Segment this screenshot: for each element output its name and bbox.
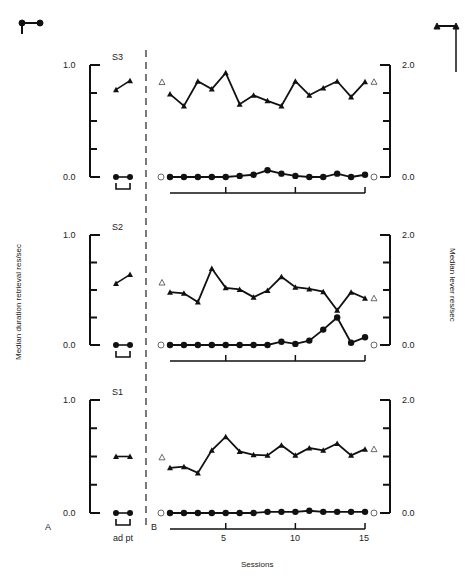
left-axis-title: Median duration retrieval res/sec (14, 244, 23, 360)
right-tick-bottom: 0.0 (402, 508, 415, 518)
chart-figure: Median duration retrieval res/sec Median… (0, 0, 474, 576)
right-tick-bottom: 0.0 (402, 172, 415, 182)
right-axis-title: Median lever res/sec (448, 248, 457, 322)
right-tick-top: 2.0 (402, 60, 415, 70)
x-tick-15: 15 (359, 533, 369, 543)
left-tick-top: 1.0 (63, 395, 76, 405)
panel-s1: S11.00.02.00.0 (63, 387, 415, 529)
legend-circle-icon (19, 20, 43, 34)
panel-s3: S31.00.02.00.0 (63, 52, 415, 193)
left-tick-bottom: 0.0 (63, 508, 76, 518)
x-axis-title: Sessions (241, 560, 273, 569)
x-tick-5: 5 (221, 533, 226, 543)
left-tick-bottom: 0.0 (63, 172, 76, 182)
subject-label: S1 (112, 387, 123, 397)
panel-b-label: B (151, 522, 157, 532)
subject-label: S2 (112, 222, 123, 232)
panel-s2: S21.00.02.00.0 (63, 222, 415, 361)
adpt-label: ad pt (113, 533, 134, 543)
subject-label: S3 (112, 52, 123, 62)
left-tick-top: 1.0 (63, 230, 76, 240)
right-tick-top: 2.0 (402, 230, 415, 240)
x-tick-10: 10 (290, 533, 300, 543)
left-tick-bottom: 0.0 (63, 340, 76, 350)
retrieval-line (170, 318, 365, 346)
right-tick-top: 2.0 (402, 395, 415, 405)
legend-triangle-icon (434, 23, 459, 72)
right-tick-bottom: 0.0 (402, 340, 415, 350)
panel-a-label: A (45, 522, 51, 532)
left-tick-top: 1.0 (63, 60, 76, 70)
